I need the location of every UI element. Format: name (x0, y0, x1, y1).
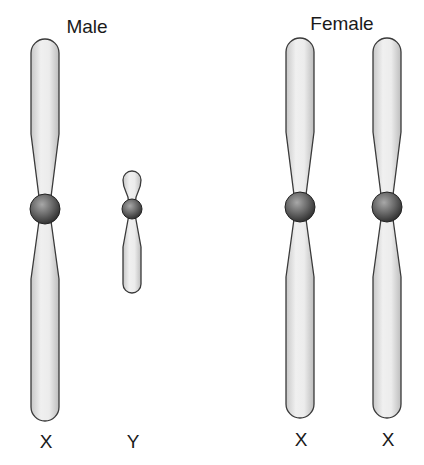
male-x-chromosome (30, 39, 60, 421)
male-x-label: X (40, 432, 53, 451)
chromosome-figure (0, 0, 424, 465)
female-x1-label: X (295, 430, 308, 449)
female-x1-chromosome (285, 38, 315, 418)
female-x2-lower-arm (373, 219, 401, 418)
female-group-title: Female (310, 14, 373, 33)
female-x2-upper-arm (373, 38, 401, 195)
female-x1-upper-arm (286, 38, 314, 195)
male-y-chromosome (122, 171, 142, 293)
male-y-centromere (122, 199, 142, 219)
female-x2-chromosome (372, 38, 402, 418)
male-y-label: Y (127, 432, 140, 451)
male-x-lower-arm (31, 221, 59, 421)
male-group-title: Male (66, 17, 107, 36)
sex-chromosomes-diagram: Male Female X Y X X (0, 0, 424, 465)
male-x-upper-arm (31, 39, 59, 197)
female-x2-centromere (372, 192, 402, 222)
female-x2-label: X (382, 430, 395, 449)
male-y-lower-arm (123, 217, 141, 293)
female-x1-centromere (285, 192, 315, 222)
male-x-centromere (30, 194, 60, 224)
male-y-upper-arm (123, 171, 141, 201)
female-x1-lower-arm (286, 219, 314, 418)
